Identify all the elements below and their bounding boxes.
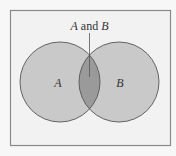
intersection-label: A and B [69,19,109,33]
venn-diagram-figure: A and B A B [0,0,176,156]
set-a-label: A [53,76,62,90]
set-b-label: B [116,76,124,90]
